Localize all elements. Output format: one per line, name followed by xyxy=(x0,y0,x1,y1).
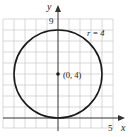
x-tick-label: 5 xyxy=(108,123,113,133)
y-axis-arrow-icon xyxy=(55,5,61,12)
circle-graph: y 9 x 5 r = 4 (0, 4) xyxy=(0,0,132,137)
center-point xyxy=(56,72,60,76)
x-axis-label: x xyxy=(120,122,126,133)
x-axis-arrow-icon xyxy=(118,115,125,121)
radius-label: r = 4 xyxy=(87,28,105,38)
center-point-label: (0, 4) xyxy=(63,70,82,80)
y-axis-label: y xyxy=(46,1,52,12)
y-tick-label: 9 xyxy=(49,16,54,26)
